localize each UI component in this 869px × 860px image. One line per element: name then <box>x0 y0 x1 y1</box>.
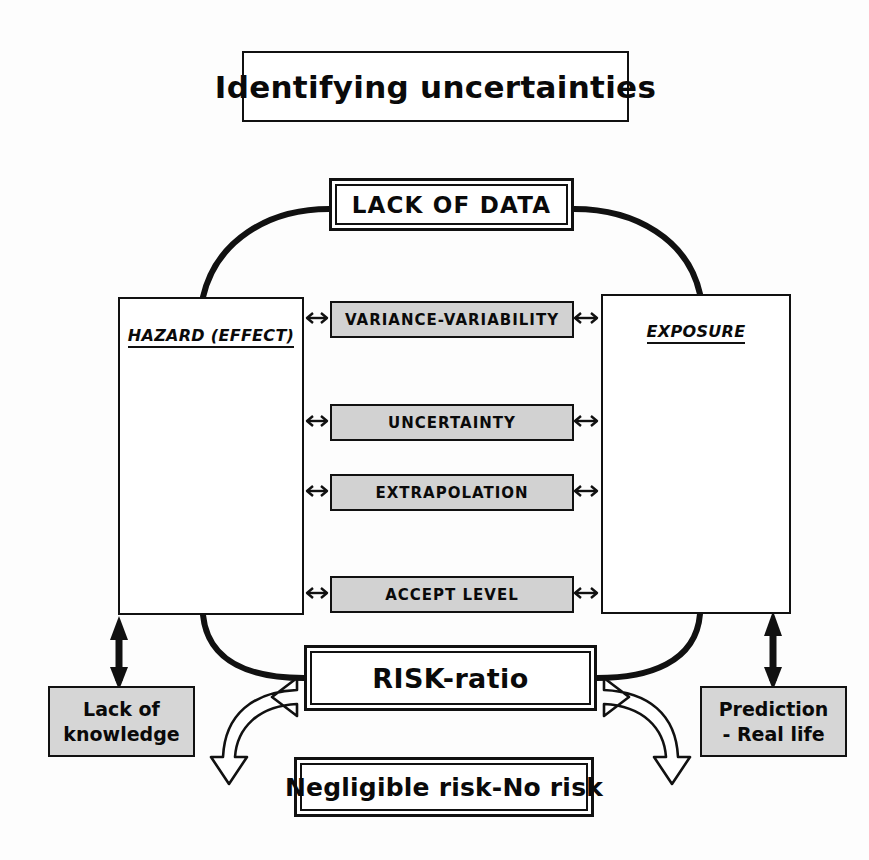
arrow-variance-exposure <box>575 313 597 323</box>
node-risk-ratio-inner: RISK-ratio <box>310 651 591 705</box>
bar-variance-variability[interactable]: VARIANCE-VARIABILITY <box>330 301 574 338</box>
arrow-hazard-to-lack-of-knowledge <box>110 616 128 690</box>
block-arrow-right <box>604 678 690 784</box>
label-prediction-line1: Prediction <box>719 697 829 721</box>
node-negligible-risk-label: Negligible risk-No risk <box>285 773 603 802</box>
bar-variance-variability-label: VARIANCE-VARIABILITY <box>345 311 559 329</box>
diagram-title-box: Identifying uncertainties <box>242 51 629 122</box>
panel-exposure[interactable]: EXPOSURE <box>601 294 791 614</box>
arrow-hazard-variance <box>307 313 327 323</box>
label-lack-of-knowledge-line2: knowledge <box>63 722 179 746</box>
node-lack-of-data-label: LACK OF DATA <box>352 192 552 218</box>
node-risk-ratio[interactable]: RISK-ratio <box>304 645 597 711</box>
panel-hazard-title: HAZARD (EFFECT) <box>120 326 302 345</box>
label-lack-of-knowledge-line1: Lack of <box>83 697 160 721</box>
arrow-uncertainty-exposure <box>575 416 597 426</box>
curve-lackofdata-to-hazard <box>203 209 329 297</box>
arrow-exposure-to-prediction <box>764 611 782 690</box>
bar-extrapolation[interactable]: EXTRAPOLATION <box>330 474 574 511</box>
curve-lackofdata-to-exposure <box>574 209 700 294</box>
block-arrow-left <box>211 678 297 784</box>
curve-hazard-to-riskratio <box>203 615 304 678</box>
node-negligible-risk[interactable]: Negligible risk-No risk <box>294 757 594 817</box>
label-prediction-line2: - Real life <box>722 722 824 746</box>
panel-exposure-title: EXPOSURE <box>603 322 789 341</box>
arrow-acceptlevel-exposure <box>575 588 597 598</box>
node-lack-of-data-inner: LACK OF DATA <box>335 184 568 225</box>
arrow-hazard-acceptlevel <box>307 588 327 598</box>
node-lack-of-data[interactable]: LACK OF DATA <box>329 178 574 231</box>
panel-hazard-effect[interactable]: HAZARD (EFFECT) <box>118 297 304 615</box>
page-title: Identifying uncertainties <box>215 69 656 105</box>
arrow-hazard-extrapolation <box>307 486 327 496</box>
arrow-extrapolation-exposure <box>575 486 597 496</box>
node-risk-ratio-label: RISK-ratio <box>372 663 528 694</box>
bar-extrapolation-label: EXTRAPOLATION <box>375 484 528 502</box>
curve-exposure-to-riskratio <box>597 614 700 678</box>
diagram-canvas: Identifying uncertainties LACK OF DATA H… <box>0 0 869 860</box>
bar-uncertainty-label: UNCERTAINTY <box>388 414 516 432</box>
bar-accept-level[interactable]: ACCEPT LEVEL <box>330 576 574 613</box>
bar-accept-level-label: ACCEPT LEVEL <box>385 586 519 604</box>
label-lack-of-knowledge[interactable]: Lack of knowledge <box>48 686 195 757</box>
arrow-hazard-uncertainty <box>307 416 327 426</box>
label-prediction-real-life[interactable]: Prediction - Real life <box>700 686 847 757</box>
bar-uncertainty[interactable]: UNCERTAINTY <box>330 404 574 441</box>
node-negligible-risk-inner: Negligible risk-No risk <box>300 763 588 811</box>
